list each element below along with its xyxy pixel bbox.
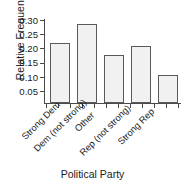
y-tick-label: 0.05 — [12, 87, 38, 97]
bar-chart: Relative Frequency 0.30 0.25 0.20 0.15 0… — [0, 0, 185, 189]
bar-rep-not-strong — [131, 46, 151, 103]
y-tick-label: 0.25 — [12, 30, 38, 40]
x-axis-tick-labels: Strong Dem Dem (not strong) Other Rep (n… — [0, 104, 185, 162]
y-tick-label: 0.30 — [12, 16, 38, 26]
bar-dem-not-strong — [77, 24, 97, 103]
x-axis-title: Political Party — [0, 168, 185, 180]
bar-other — [104, 55, 124, 103]
y-tick-label: 0.10 — [12, 73, 38, 83]
y-tick-label: 0.15 — [12, 58, 38, 68]
bar-strong-dem — [50, 43, 70, 103]
plot-area — [44, 14, 181, 103]
y-tick-label: 0.20 — [12, 44, 38, 54]
bar-strong-rep — [158, 75, 178, 103]
